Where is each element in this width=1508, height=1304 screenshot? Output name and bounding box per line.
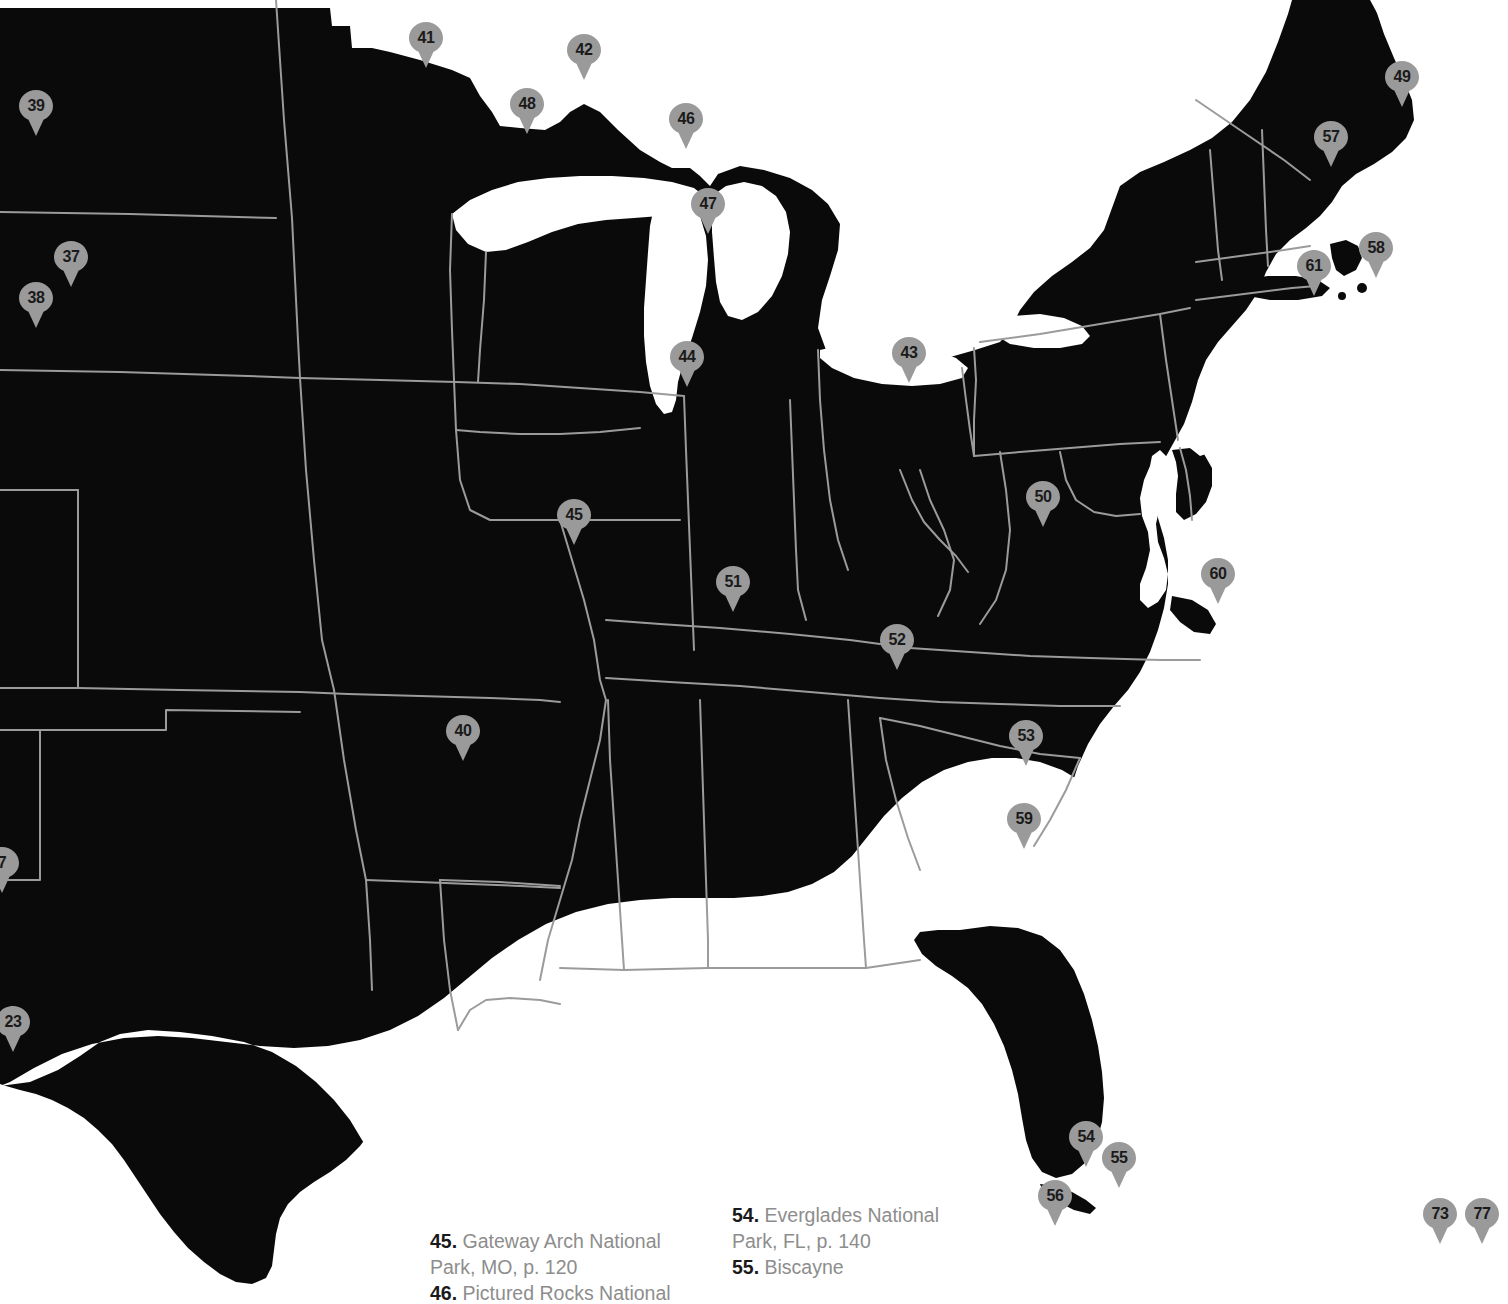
map-marker-label: 7 (0, 847, 19, 879)
legend-entry-text: Everglades National Park, FL, p. 140 (732, 1204, 939, 1252)
map-marker-40[interactable]: 40 (446, 715, 480, 761)
map-marker-46[interactable]: 46 (669, 103, 703, 149)
map-marker-58[interactable]: 58 (1359, 232, 1393, 278)
map-marker-61[interactable]: 61 (1297, 250, 1331, 296)
map-marker-label: 48 (510, 88, 544, 120)
map-marker-label: 52 (880, 624, 914, 656)
map-marker-label: 54 (1069, 1121, 1103, 1153)
legend-entry-text: Pictured Rocks National (457, 1282, 671, 1304)
legend-column-2: 54. Everglades National Park, FL, p. 140… (732, 1202, 982, 1304)
map-marker-label: 58 (1359, 232, 1393, 264)
map-marker-41[interactable]: 41 (409, 22, 443, 68)
map-marker-43[interactable]: 43 (892, 337, 926, 383)
legend-entry-text: Gateway Arch National Park, MO, p. 120 (430, 1230, 661, 1278)
map-marker-label: 23 (0, 1006, 30, 1038)
legend-column-1: 45. Gateway Arch National Park, MO, p. 1… (430, 1202, 680, 1304)
map-marker-label: 51 (716, 566, 750, 598)
map-marker-48[interactable]: 48 (510, 88, 544, 134)
map-legend: 45. Gateway Arch National Park, MO, p. 1… (430, 1202, 1070, 1304)
map-marker-label: 37 (54, 241, 88, 273)
map-marker-53[interactable]: 53 (1009, 720, 1043, 766)
legend-entry-number: 45. (430, 1230, 457, 1252)
map-marker-label: 40 (446, 715, 480, 747)
map-marker-label: 61 (1297, 250, 1331, 282)
map-marker-51[interactable]: 51 (716, 566, 750, 612)
map-marker-label: 45 (557, 499, 591, 531)
map-marker-label: 38 (19, 282, 53, 314)
map-marker-47[interactable]: 47 (691, 188, 725, 234)
map-marker-label: 47 (691, 188, 725, 220)
map-marker-label: 57 (1314, 121, 1348, 153)
legend-entry: 54. Everglades National Park, FL, p. 140 (732, 1202, 982, 1254)
map-marker-label: 49 (1385, 61, 1419, 93)
map-marker-37[interactable]: 37 (54, 241, 88, 287)
map-marker-label: 73 (1423, 1198, 1457, 1230)
map-marker-49[interactable]: 49 (1385, 61, 1419, 107)
map-marker-55[interactable]: 55 (1102, 1142, 1136, 1188)
map-marker-39[interactable]: 39 (19, 90, 53, 136)
map-marker-label: 55 (1102, 1142, 1136, 1174)
map-marker-label: 46 (669, 103, 703, 135)
map-marker-59[interactable]: 59 (1007, 803, 1041, 849)
map-marker-label: 39 (19, 90, 53, 122)
legend-entry: 45. Gateway Arch National Park, MO, p. 1… (430, 1228, 680, 1280)
legend-entry: 46. Pictured Rocks National (430, 1280, 680, 1304)
map-marker-label: 41 (409, 22, 443, 54)
map-marker-7[interactable]: 7 (0, 847, 19, 893)
map-marker-label: 59 (1007, 803, 1041, 835)
map-marker-54[interactable]: 54 (1069, 1121, 1103, 1167)
map-marker-label: 77 (1465, 1198, 1499, 1230)
map-marker-label: 60 (1201, 558, 1235, 590)
map-marker-52[interactable]: 52 (880, 624, 914, 670)
map-marker-73[interactable]: 73 (1423, 1198, 1457, 1244)
map-marker-label: 53 (1009, 720, 1043, 752)
map-marker-label: 50 (1026, 481, 1060, 513)
map-marker-44[interactable]: 44 (670, 341, 704, 387)
map-marker-label: 43 (892, 337, 926, 369)
map-marker-45[interactable]: 45 (557, 499, 591, 545)
legend-entry: 55. Biscayne (732, 1254, 982, 1280)
legend-entry-number: 46. (430, 1282, 457, 1304)
legend-entry-number: 55. (732, 1256, 759, 1278)
map-marker-23[interactable]: 23 (0, 1006, 30, 1052)
map-marker-label: 42 (567, 34, 601, 66)
legend-entry-text: Biscayne (759, 1256, 844, 1278)
map-marker-42[interactable]: 42 (567, 34, 601, 80)
map-marker-38[interactable]: 38 (19, 282, 53, 328)
map-marker-57[interactable]: 57 (1314, 121, 1348, 167)
legend-entry-number: 54. (732, 1204, 759, 1226)
map-marker-label: 44 (670, 341, 704, 373)
map-marker-60[interactable]: 60 (1201, 558, 1235, 604)
map-marker-77[interactable]: 77 (1465, 1198, 1499, 1244)
map-marker-50[interactable]: 50 (1026, 481, 1060, 527)
